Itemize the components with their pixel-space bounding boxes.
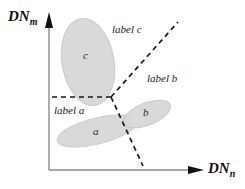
y-axis-label-subscript: m	[30, 16, 38, 27]
region-label-b: label b	[147, 72, 177, 84]
x-axis-label-text: DN	[208, 160, 230, 176]
x-axis-arrowhead	[188, 166, 204, 174]
region-label-a: label a	[54, 104, 84, 116]
x-axis-label: DNn	[208, 160, 235, 179]
y-axis-arrowhead	[45, 12, 53, 28]
region-label-c: label c	[112, 23, 142, 35]
y-axis-label: DNm	[8, 8, 37, 27]
feature-space-diagram: DNm DNn label c label b label a c a b	[0, 0, 245, 189]
cluster-label-a: a	[93, 125, 99, 137]
x-axis-label-subscript: n	[230, 168, 236, 179]
cluster-label-c: c	[83, 49, 88, 61]
y-axis-label-text: DN	[8, 8, 30, 24]
cluster-label-b: b	[143, 106, 149, 118]
